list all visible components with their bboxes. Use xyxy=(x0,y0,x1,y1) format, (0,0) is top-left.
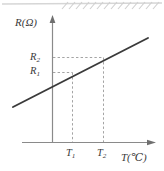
r1-subscript: 1 xyxy=(36,70,40,78)
x-axis-label: T(℃) xyxy=(121,152,147,163)
y-tick-label-r2: R2 xyxy=(30,52,40,64)
t1-subscript: 1 xyxy=(72,152,76,160)
y-axis xyxy=(50,15,56,143)
x-axis xyxy=(22,140,156,146)
t2-subscript: 2 xyxy=(103,152,107,160)
top-hatching-decoration xyxy=(2,2,162,9)
x-axis-label-text: T(℃) xyxy=(121,151,147,163)
y-axis-label: R(Ω) xyxy=(15,17,37,28)
x-tick-label-t1: T1 xyxy=(66,148,75,160)
y-tick-label-r1: R1 xyxy=(30,66,40,78)
y-axis-label-text: R(Ω) xyxy=(15,16,37,28)
construction-guides xyxy=(53,58,104,143)
r2-subscript: 2 xyxy=(36,56,40,64)
x-tick-label-t2: T2 xyxy=(97,148,106,160)
resistance-temperature-figure: R(Ω) T(℃) R2 R1 T1 T2 xyxy=(0,0,164,171)
